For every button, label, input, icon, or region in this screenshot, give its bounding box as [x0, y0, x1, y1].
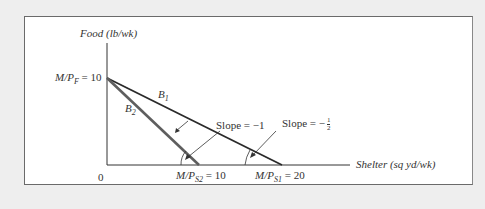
leader-line-slope-1: [188, 131, 220, 157]
shelter-intercept-2-label: M/PS2 = 10: [176, 169, 226, 184]
origin-label: 0: [98, 171, 104, 183]
fraction: 12: [327, 117, 331, 132]
food-intercept-label: M/PF = 10: [55, 71, 102, 86]
shelter-intercept-1-label: M/PS1 = 20: [255, 169, 305, 184]
slope-annotation-b2: Slope = −1: [216, 119, 264, 131]
b1-label: B1: [158, 88, 169, 103]
b2-label: B2: [125, 102, 136, 117]
slope-annotation-b1: Slope = −12: [282, 117, 330, 132]
budget-constraint-diagram: [0, 0, 485, 209]
y-axis-label: Food (lb/wk): [80, 27, 137, 39]
x-axis-label: Shelter (sq yd/wk): [356, 158, 435, 170]
leader-line-slope-half: [253, 131, 276, 155]
angle-arc-b1: [245, 150, 250, 165]
